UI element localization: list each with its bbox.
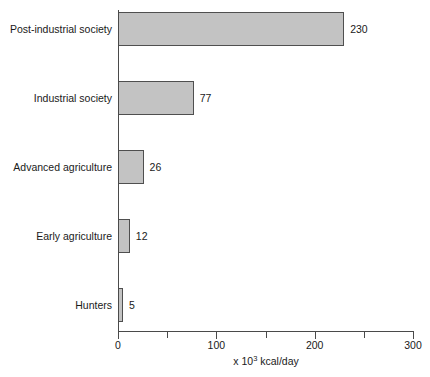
bar — [118, 12, 344, 46]
x-axis-tick-label: 0 — [98, 339, 138, 351]
x-axis-tick — [216, 332, 217, 339]
bar-row: Early agriculture12 — [0, 219, 430, 253]
x-axis-tick-label: 100 — [196, 339, 236, 351]
category-label: Post-industrial society — [0, 12, 112, 46]
x-axis-tick — [167, 332, 168, 338]
y-axis-line — [118, 10, 119, 331]
x-axis-tick — [266, 332, 267, 338]
x-axis-title: x 103 kcal/day — [118, 355, 414, 367]
bar-row: Industrial society77 — [0, 81, 430, 115]
bar-value-label: 230 — [350, 12, 368, 46]
bar-row: Post-industrial society230 — [0, 12, 430, 46]
bar — [118, 150, 144, 184]
bar-value-label: 5 — [129, 288, 135, 322]
bar — [118, 81, 194, 115]
x-axis-tick-label: 200 — [295, 339, 335, 351]
x-axis-tick — [413, 332, 414, 339]
bar-row: Hunters5 — [0, 288, 430, 322]
bar-value-label: 26 — [150, 150, 162, 184]
x-axis-title-suffix: kcal/day — [257, 355, 298, 367]
category-label: Advanced agriculture — [0, 150, 112, 184]
bar-chart: Post-industrial society230Industrial soc… — [0, 0, 430, 377]
bar-value-label: 12 — [136, 219, 148, 253]
x-axis-tick-label: 300 — [393, 339, 430, 351]
x-axis-tick — [315, 332, 316, 339]
bar-value-label: 77 — [200, 81, 212, 115]
bar-row: Advanced agriculture26 — [0, 150, 430, 184]
category-label: Hunters — [0, 288, 112, 322]
category-label: Early agriculture — [0, 219, 112, 253]
x-axis-tick — [118, 332, 119, 339]
category-label: Industrial society — [0, 81, 112, 115]
bar — [118, 219, 130, 253]
x-axis-tick — [364, 332, 365, 338]
x-axis-title-prefix: x 10 — [233, 355, 253, 367]
